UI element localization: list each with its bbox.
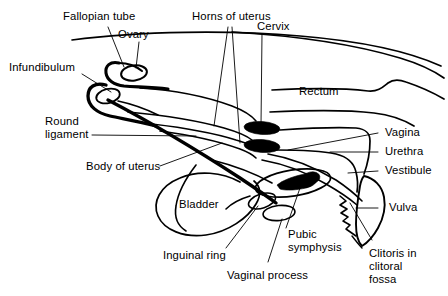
- label-ovary: Ovary: [118, 28, 149, 41]
- label-body-of-uterus: Body of uterus: [86, 160, 160, 173]
- label-pubic-symphysis: Pubic symphysis: [288, 228, 342, 254]
- leader-vagina: [288, 133, 378, 150]
- leader-horns-of-uterus: [214, 27, 228, 126]
- body-of-uterus: [160, 131, 256, 158]
- label-round-ligament: Round ligament: [45, 115, 89, 141]
- leader-vaginal-process: [268, 219, 282, 262]
- leader-vestibule: [348, 171, 378, 173]
- anatomy-figure: Fallopian tube Ovary Horns of uterus Cer…: [0, 0, 448, 296]
- label-rectum: Rectum: [299, 85, 339, 98]
- fallopian-tube: [106, 63, 168, 89]
- label-bladder: Bladder: [179, 198, 219, 211]
- leader-ovary: [136, 42, 139, 68]
- rectum: [270, 80, 444, 126]
- label-vagina: Vagina: [385, 126, 420, 139]
- leader-horns-of-uterus-2: [232, 27, 240, 143]
- cervix: [244, 120, 281, 153]
- leader-pubic-symphysis: [286, 188, 300, 228]
- label-vaginal-process: Vaginal process: [227, 269, 308, 282]
- label-fallopian-tube: Fallopian tube: [63, 10, 135, 23]
- label-vestibule: Vestibule: [385, 164, 432, 177]
- label-cervix: Cervix: [257, 20, 290, 33]
- label-infundibulum: Infundibulum: [9, 61, 75, 74]
- label-vulva: Vulva: [389, 201, 417, 214]
- label-clitoris-in-clitoral-fossa: Clitoris in clitoral fossa: [369, 247, 417, 287]
- vulva: [356, 176, 385, 246]
- label-urethra: Urethra: [385, 145, 423, 158]
- leader-cervix: [261, 34, 262, 126]
- label-inguinal-ring: Inguinal ring: [163, 249, 226, 262]
- leader-round-ligament: [92, 135, 196, 136]
